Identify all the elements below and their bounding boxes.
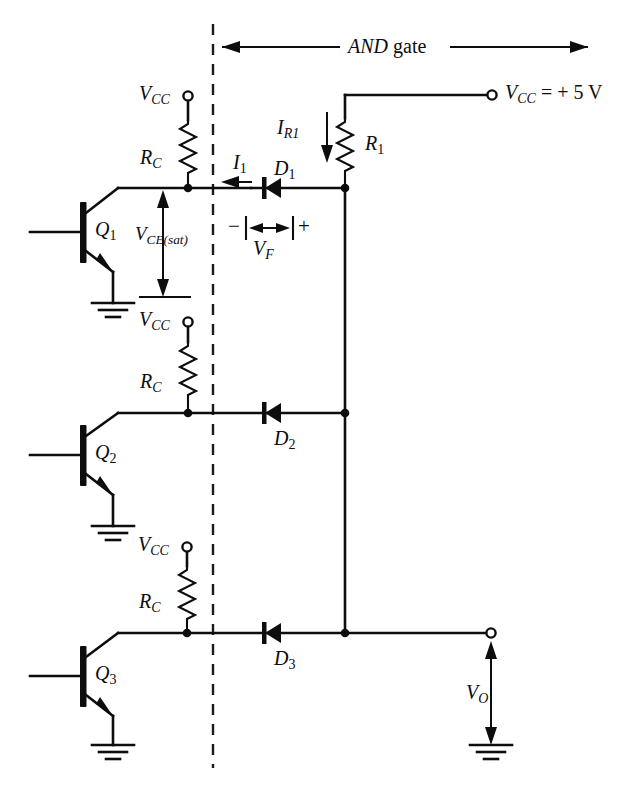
vcc-supply-rail xyxy=(345,90,497,118)
diode-d2 xyxy=(262,402,281,424)
resistor-r1-label: R1 xyxy=(365,133,384,157)
stage2-ground-symbol xyxy=(92,526,134,540)
resistor-r1 xyxy=(337,118,353,188)
transistor-q1 xyxy=(30,188,118,303)
diode-d3 xyxy=(262,622,281,644)
current-arrow-i1 xyxy=(221,176,252,188)
figure-canvas: AND gate VCC = + 5 V R1 IR1 I1 D1 VCC RC… xyxy=(0,0,641,792)
stage1-ground-symbol xyxy=(92,303,134,317)
transistor-q3-label: Q3 xyxy=(95,663,116,687)
vcc-rail-label: VCC = + 5 V xyxy=(505,82,603,106)
polarity-plus-label: + xyxy=(298,216,310,237)
diode-d3-label: D3 xyxy=(274,648,295,672)
and-gate-label: AND gate xyxy=(348,36,426,56)
vcc-rail-terminal[interactable] xyxy=(487,90,496,99)
polarity-minus-label: − xyxy=(228,216,240,237)
stage2-rc-label: RC xyxy=(140,371,162,395)
stage1-resistor-rc xyxy=(180,120,196,188)
stage3-rc-label: RC xyxy=(139,591,161,615)
current-arrow-ir1 xyxy=(321,112,333,163)
diode-d1 xyxy=(251,177,345,199)
vce-sat-label: VCE(sat) xyxy=(135,224,188,246)
stage3-vcc-terminal[interactable] xyxy=(182,542,191,551)
output-voltage-label: VO xyxy=(466,682,488,706)
output-ground-symbol xyxy=(470,745,512,759)
transistor-q3 xyxy=(30,633,118,745)
stage-2-group xyxy=(30,317,345,540)
stage-3-group xyxy=(30,542,345,759)
stage2-vcc-label: VCC xyxy=(139,309,170,333)
stage3-resistor-rc xyxy=(179,566,195,633)
current-i1-label: I1 xyxy=(233,152,247,176)
stage2-collector-node xyxy=(184,409,193,418)
output-terminal[interactable] xyxy=(486,628,495,637)
stage1-collector-node xyxy=(184,184,193,193)
stage2-resistor-rc xyxy=(180,342,196,413)
stage3-ground-symbol xyxy=(92,745,134,759)
transistor-q2-label: Q2 xyxy=(95,442,116,466)
stage1-vcc-label: VCC xyxy=(139,83,170,107)
stage3-vcc-label: VCC xyxy=(138,534,169,558)
transistor-q1-label: Q1 xyxy=(95,219,116,243)
diode-d2-label: D2 xyxy=(274,428,295,452)
stage1-vcc-terminal[interactable] xyxy=(183,91,192,100)
diode-d1-label: D1 xyxy=(274,158,295,182)
vf-label: VF xyxy=(253,238,274,262)
stage3-collector-node xyxy=(183,629,192,638)
stage1-rc-label: RC xyxy=(140,147,162,171)
transistor-q2 xyxy=(30,413,118,526)
stage2-vcc-terminal[interactable] xyxy=(183,317,192,326)
current-ir1-label: IR1 xyxy=(277,117,299,141)
